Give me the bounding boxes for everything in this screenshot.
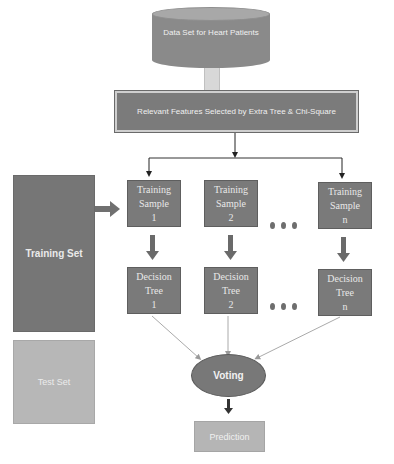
tree-n-line3: n	[343, 300, 348, 314]
tree-1-line3: 1	[152, 298, 157, 312]
voting-node: Voting	[191, 354, 266, 397]
tree-2-line2: Tree	[222, 284, 240, 298]
decision-tree-2: Decision Tree 2	[204, 267, 258, 314]
sample-2-line3: 2	[229, 211, 234, 225]
sample-1-line1: Training	[137, 183, 171, 197]
tree-1-line1: Decision	[136, 270, 172, 284]
ellipsis-samples	[270, 222, 297, 229]
training-sample-1: Training Sample 1	[127, 180, 181, 227]
tree-2-line3: 2	[229, 298, 234, 312]
voting-label: Voting	[213, 370, 243, 381]
sample-n-line3: n	[343, 213, 348, 227]
prediction-label: Prediction	[209, 432, 249, 442]
sample-1-line3: 1	[152, 211, 157, 225]
tree-2-line1: Decision	[213, 270, 249, 284]
test-set-label: Test Set	[38, 377, 71, 387]
tree-n-line2: Tree	[336, 286, 354, 300]
database-cylinder-top	[152, 7, 270, 21]
database-cylinder-icon	[152, 14, 270, 68]
sample-n-line2: Sample	[330, 199, 360, 213]
training-set-label: Training Set	[25, 248, 82, 259]
tree-1-line2: Tree	[145, 284, 163, 298]
decision-tree-1: Decision Tree 1	[127, 267, 181, 314]
feature-selection-box: Relevant Features Selected by Extra Tree…	[115, 91, 358, 132]
sample-1-line2: Sample	[139, 197, 169, 211]
training-sample-2: Training Sample 2	[204, 180, 258, 227]
tree-n-line1: Decision	[327, 272, 363, 286]
training-sample-n: Training Sample n	[318, 182, 372, 229]
sample-n-line1: Training	[328, 185, 362, 199]
database-connector	[204, 68, 220, 90]
feature-selection-label: Relevant Features Selected by Extra Tree…	[137, 107, 336, 116]
sample-2-line1: Training	[214, 183, 248, 197]
sample-2-line2: Sample	[216, 197, 246, 211]
training-set-box: Training Set	[13, 175, 95, 332]
test-set-box: Test Set	[13, 340, 95, 424]
ellipsis-trees	[270, 303, 297, 310]
database-label: Data Set for Heart Patients	[152, 28, 270, 37]
prediction-box: Prediction	[194, 421, 265, 452]
decision-tree-n: Decision Tree n	[318, 269, 372, 316]
